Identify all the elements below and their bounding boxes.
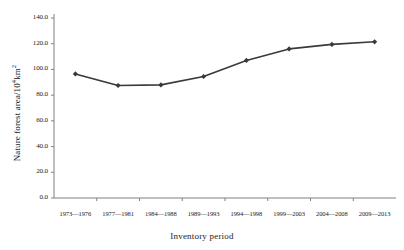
- data-point-marker: [158, 82, 163, 87]
- data-point-marker: [244, 58, 249, 63]
- data-series-line: [75, 42, 374, 86]
- data-point-marker: [73, 71, 78, 76]
- data-point-marker: [372, 39, 377, 44]
- data-point-marker: [287, 46, 292, 51]
- data-point-marker: [116, 83, 121, 88]
- plot-area: [0, 0, 404, 250]
- data-point-marker: [329, 42, 334, 47]
- x-axis-title: Inventory period: [0, 231, 404, 241]
- data-point-marker: [201, 74, 206, 79]
- chart-container: Nature forest area/104km2 0.020.040.060.…: [0, 0, 404, 250]
